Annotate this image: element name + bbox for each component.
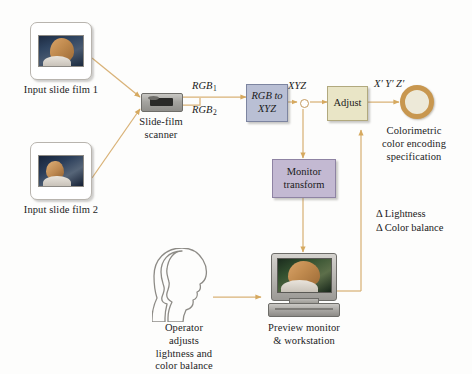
color-encoding-workflow-diagram: Input slide film 1 Input slide film 2 Sl…	[0, 0, 472, 374]
crt-workstation-icon	[267, 253, 339, 319]
slide-film-icon	[38, 35, 84, 67]
xyz-split-node	[300, 99, 309, 108]
process-box-monitor-transform[interactable]: Monitor transform	[272, 159, 336, 198]
film-scanner-icon	[141, 93, 183, 112]
process-box-adjust[interactable]: Adjust	[327, 86, 368, 121]
operator-caption: Operator adjusts lightness and color bal…	[128, 322, 240, 373]
colorimetric-ring-icon	[400, 85, 434, 119]
process-box-rgb-to-xyz[interactable]: RGB to XYZ	[246, 84, 288, 122]
output-caption: Colorimetric color encoding specificatio…	[356, 125, 472, 163]
input-slide-film-1	[30, 22, 92, 80]
slide-film-icon	[38, 155, 84, 187]
workstation-caption: Preview monitor & workstation	[250, 322, 358, 348]
signal-label-rgb2: RGB2	[192, 104, 216, 115]
feedback-label: Δ Lightness Δ Color balance	[376, 207, 443, 234]
operator-head-silhouette-icon	[152, 248, 214, 322]
signal-label-xyz: XYZ	[288, 80, 306, 91]
input-slide-film-1-caption: Input slide film 1	[4, 84, 118, 97]
input-slide-film-2	[30, 142, 92, 200]
input-slide-film-2-caption: Input slide film 2	[4, 204, 118, 217]
signal-label-rgb1: RGB1	[192, 80, 216, 91]
scanner-caption: Slide-film scanner	[121, 116, 201, 142]
signal-label-xyz-prime: X′ Y′ Z′	[374, 78, 404, 89]
